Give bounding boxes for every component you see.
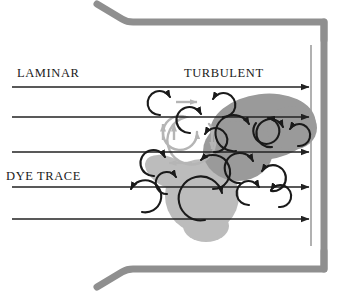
eddy-16 [237,181,259,205]
blob-bottom-tail [183,210,229,242]
eddy-1 [148,91,170,115]
pipe-flow-diagram: LAMINAR TURBULENT DYE TRACE [0,0,343,291]
eddy-15 [131,180,161,212]
figure-container: LAMINAR TURBULENT DYE TRACE [0,0,343,291]
label-turbulent: TURBULENT [184,66,264,80]
top-wall [97,4,324,40]
label-laminar: LAMINAR [17,66,80,80]
label-dye-trace: DYE TRACE [6,169,81,183]
bottom-wall [97,251,324,287]
